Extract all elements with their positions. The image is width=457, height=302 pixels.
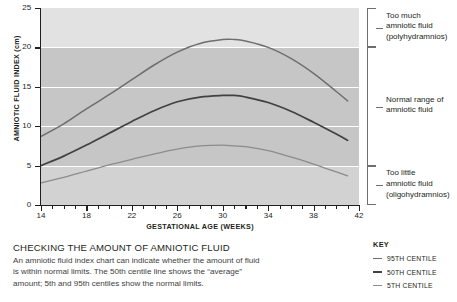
bracket-stub-oligohydramnios <box>376 185 383 186</box>
annotation-line-1: Normal range of <box>386 95 456 106</box>
bracket-stub-polyhydramnios <box>376 28 383 29</box>
key-swatch-icon <box>373 258 382 260</box>
key-swatch-icon <box>373 271 382 273</box>
key-label: 5TH CENTILE <box>387 282 433 289</box>
annotation-line-2: amniotic fluid <box>386 21 456 32</box>
key-title: KEY <box>373 240 437 249</box>
annotation-line-1: Too little <box>386 168 456 179</box>
bracket-stub-normal-range <box>376 107 383 108</box>
annotation-normal-range: Normal range of amniotic fluid <box>386 95 456 116</box>
caption-body: An amniotic fluid index chart can indica… <box>13 255 263 289</box>
annotation-line-1: Too much <box>386 11 456 22</box>
key-swatch-icon <box>373 285 382 287</box>
key-item-2: 5TH CENTILE <box>373 282 437 289</box>
bracket-oligohydramnios <box>367 166 376 205</box>
annotation-oligohydramnios: Too little amniotic fluid (oligohydramni… <box>386 168 456 200</box>
bracket-normal-range <box>367 47 376 165</box>
amniotic-fluid-index-chart: 0510152025 1418222630343842 AMNIOTIC FLU… <box>0 0 457 232</box>
key-item-0: 95TH CENTILE <box>373 255 437 262</box>
annotation-line-3: (oligohydramnios) <box>386 190 456 201</box>
key-items: 95TH CENTILE50TH CENTILE5TH CENTILE <box>373 255 437 289</box>
bracket-polyhydramnios <box>367 8 376 47</box>
annotation-line-2: amniotic fluid <box>386 179 456 190</box>
range-annotations: Too much amniotic fluid (polyhydramnios)… <box>0 0 457 232</box>
annotation-polyhydramnios: Too much amniotic fluid (polyhydramnios) <box>386 11 456 43</box>
key-label: 95TH CENTILE <box>387 255 437 262</box>
annotation-line-2: amniotic fluid <box>386 105 456 116</box>
annotation-line-3: (polyhydramnios) <box>386 32 456 43</box>
key-label: 50TH CENTILE <box>387 269 437 276</box>
caption-title: CHECKING THE AMOUNT OF AMNIOTIC FLUID <box>13 242 263 253</box>
caption-block: CHECKING THE AMOUNT OF AMNIOTIC FLUID An… <box>13 242 263 289</box>
key-item-1: 50TH CENTILE <box>373 269 437 276</box>
chart-key: KEY 95TH CENTILE50TH CENTILE5TH CENTILE <box>373 240 437 296</box>
